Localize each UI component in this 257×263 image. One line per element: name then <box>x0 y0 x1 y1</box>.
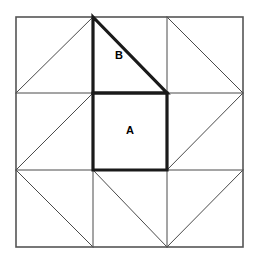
label-triangle-b: B <box>115 49 123 61</box>
tiled-square-diagram: B A <box>0 0 257 263</box>
geometry-figure: B A <box>0 0 257 263</box>
label-square-a: A <box>126 124 134 136</box>
